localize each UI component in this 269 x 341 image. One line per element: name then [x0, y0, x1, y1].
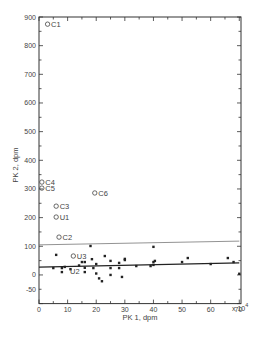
data-point — [55, 254, 57, 256]
data-point — [209, 263, 211, 265]
y-tick-label: 600 — [24, 99, 36, 106]
open-circle-marker — [57, 235, 61, 239]
point-label: C1 — [51, 20, 61, 29]
plot-border — [39, 17, 241, 304]
point-label: C6 — [98, 189, 108, 198]
data-point — [52, 267, 54, 269]
data-point — [135, 265, 137, 267]
y-axis-title: PK 2, dpm — [11, 147, 20, 182]
data-point — [227, 257, 229, 259]
plot-frame — [39, 17, 241, 304]
data-point — [238, 273, 240, 275]
data-point — [121, 276, 123, 278]
y-tick-label: 800 — [24, 42, 36, 49]
x-axis-ticks: 010203040506070 — [37, 17, 242, 313]
scatter-chart: 010203040506070 900800700600500400300200… — [0, 0, 269, 341]
y-tick-label: 200 — [24, 214, 36, 221]
point-label: U1 — [60, 213, 70, 222]
data-point — [91, 258, 93, 260]
data-point — [95, 272, 97, 274]
point-label: C2 — [63, 233, 73, 242]
open-circle-marker — [40, 180, 44, 184]
y-tick-label: 100 — [24, 243, 36, 250]
labeled-points: C1C4C5C6C3U1C2U3U2 — [40, 20, 108, 275]
data-point — [64, 266, 66, 268]
y-tick-label: 900 — [24, 14, 36, 21]
data-point — [84, 271, 86, 273]
data-point — [61, 271, 63, 273]
data-point — [187, 257, 189, 259]
x-tick-label: 60 — [207, 306, 215, 313]
fit-lines — [39, 241, 239, 267]
x-tick-label: 10 — [64, 306, 72, 313]
x-axis-title: PK 1, dpm — [122, 313, 157, 322]
x-tick-label: 0 — [37, 306, 41, 313]
regression-line — [39, 263, 239, 267]
data-point — [101, 280, 103, 282]
y-tick-label: 400 — [24, 157, 36, 164]
open-circle-marker — [54, 204, 58, 208]
data-point — [98, 277, 100, 279]
open-circle-marker — [93, 191, 97, 195]
data-point — [232, 261, 234, 263]
x-tick-label: 50 — [178, 306, 186, 313]
data-point — [109, 274, 111, 276]
data-point — [149, 265, 151, 267]
point-label: C5 — [45, 184, 55, 193]
data-point — [84, 267, 86, 269]
y-tick-label: -50 — [26, 286, 36, 293]
data-point — [109, 267, 111, 269]
data-point — [154, 260, 156, 262]
data-point — [109, 260, 111, 262]
open-circle-marker — [40, 186, 44, 190]
x-tick-label: 20 — [92, 306, 100, 313]
data-point — [81, 261, 83, 263]
data-point — [124, 259, 126, 261]
point-label: U2 — [70, 267, 80, 276]
y-axis-ticks: 9008007006005004003002001000-50 — [24, 14, 241, 304]
x-tick-label: 30 — [121, 306, 129, 313]
data-point — [152, 264, 154, 266]
open-circle-marker — [54, 215, 58, 219]
data-point — [95, 263, 97, 265]
data-point — [92, 267, 94, 269]
open-circle-marker — [71, 254, 75, 258]
data-point — [118, 262, 120, 264]
point-label: U3 — [77, 252, 87, 261]
data-point — [84, 261, 86, 263]
data-point — [181, 261, 183, 263]
data-point — [152, 246, 154, 248]
x-tick-label: 40 — [150, 306, 158, 313]
y-tick-label: 500 — [24, 128, 36, 135]
data-point — [89, 245, 91, 247]
data-point — [61, 267, 63, 269]
point-label: C3 — [60, 202, 70, 211]
y-tick-label: 0 — [32, 271, 36, 278]
y-tick-label: 300 — [24, 185, 36, 192]
data-point — [104, 255, 106, 257]
open-circle-marker — [45, 22, 49, 26]
data-point — [118, 267, 120, 269]
y-tick-label: 700 — [24, 71, 36, 78]
